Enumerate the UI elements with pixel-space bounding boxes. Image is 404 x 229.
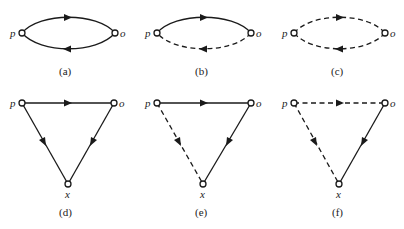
node-label-p: p	[9, 27, 16, 39]
node-p	[154, 100, 160, 106]
edge-o-to-p-lower	[157, 33, 251, 49]
panel-caption: (f)	[332, 206, 343, 219]
arrow-down-right-icon	[39, 137, 46, 146]
edge-o-to-p-lower	[294, 33, 385, 49]
node-p	[291, 30, 297, 36]
node-p	[154, 30, 160, 36]
arrow-down-left-icon	[90, 137, 97, 146]
node-label-x: x	[199, 188, 205, 200]
node-label-p: p	[9, 97, 16, 109]
node-label-p: p	[281, 27, 288, 39]
panel-caption: (a)	[59, 65, 72, 78]
arrow-left-icon	[199, 46, 207, 53]
node-o	[111, 100, 117, 106]
arrow-right-icon	[336, 14, 344, 21]
node-label-o: o	[119, 97, 125, 109]
node-label-o: o	[390, 97, 396, 109]
graph-diagrams-figure: p o (a) p o (b) p o (c) p	[0, 0, 404, 229]
node-o	[382, 30, 388, 36]
edge-p-to-o-upper	[294, 17, 385, 33]
node-x	[200, 181, 206, 187]
edge-p-to-o-upper	[157, 17, 251, 33]
node-p	[291, 100, 297, 106]
panel-caption: (b)	[195, 65, 208, 78]
node-label-o: o	[390, 27, 396, 39]
edge-o-to-p-lower	[22, 33, 115, 49]
arrow-right-icon	[64, 100, 72, 107]
node-label-p: p	[281, 97, 288, 109]
panel-d: p o x (d)	[9, 97, 125, 219]
panel-caption: (e)	[195, 206, 208, 219]
node-label-x: x	[64, 188, 70, 200]
node-o	[382, 100, 388, 106]
node-p	[19, 100, 25, 106]
panel-caption: (c)	[331, 65, 344, 78]
arrow-right-icon	[200, 100, 208, 107]
node-o	[248, 30, 254, 36]
node-label-p: p	[144, 97, 151, 109]
node-o	[112, 30, 118, 36]
arrow-down-left-icon	[226, 137, 233, 146]
arrow-left-icon	[335, 46, 343, 53]
node-p	[19, 30, 25, 36]
panel-caption: (d)	[59, 206, 72, 219]
edge-p-to-o-upper	[22, 17, 115, 33]
node-label-o: o	[120, 27, 126, 39]
arrow-right-icon	[64, 14, 72, 21]
panel-f: p o x (f)	[281, 97, 396, 219]
arrow-right-icon	[200, 14, 208, 21]
node-label-p: p	[144, 27, 151, 39]
node-x	[65, 181, 71, 187]
node-x	[336, 181, 342, 187]
node-label-o: o	[256, 27, 262, 39]
arrow-down-right-icon	[310, 137, 317, 146]
panel-e: p o x (e)	[144, 97, 262, 219]
panel-c: p o (c)	[281, 14, 396, 78]
arrow-left-icon	[63, 46, 71, 53]
node-label-x: x	[335, 188, 341, 200]
arrow-down-right-icon	[174, 137, 181, 146]
arrow-right-icon	[336, 100, 344, 107]
panel-b: p o (b)	[144, 14, 262, 78]
node-o	[248, 100, 254, 106]
node-label-o: o	[256, 97, 262, 109]
arrow-down-left-icon	[361, 137, 368, 146]
panel-a: p o (a)	[9, 14, 126, 78]
